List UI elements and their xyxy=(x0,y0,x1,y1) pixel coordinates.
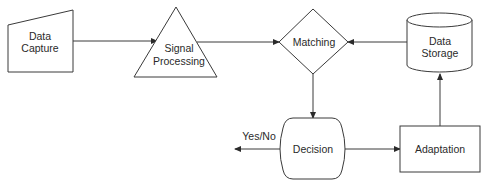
label-signal-processing-line2: Processing xyxy=(153,55,205,67)
label-data-capture-line1: Data xyxy=(29,30,51,42)
label-signal-processing-line1: Signal xyxy=(164,42,193,54)
label-matching: Matching xyxy=(293,36,336,48)
label-data-capture-line2: Capture xyxy=(21,42,59,54)
label-data-storage-line1: Data xyxy=(429,35,451,47)
label-decision: Decision xyxy=(293,143,333,155)
label-data-storage-line2: Storage xyxy=(422,47,459,59)
biometric-system-diagram: Data Capture Signal Processing Matching … xyxy=(0,0,485,184)
label-adaptation: Adaptation xyxy=(415,143,465,155)
label-yes-no-output: Yes/No xyxy=(242,130,276,142)
